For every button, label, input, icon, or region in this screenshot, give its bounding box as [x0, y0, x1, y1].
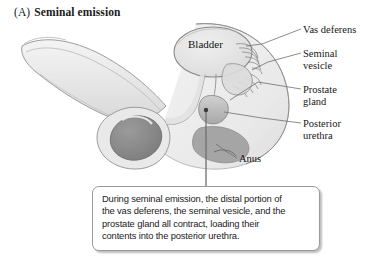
label-vas-deferens: Vas deferens: [303, 24, 356, 36]
leader-caption-anchor: [204, 108, 208, 112]
prostate-gland-organ: [199, 95, 229, 124]
label-seminal-vesicle: Seminal vesicle: [303, 48, 337, 71]
label-posterior-urethra: Posterior urethra: [303, 118, 341, 141]
caption-box: During seminal emission, the distal port…: [92, 186, 320, 251]
figure-panel-a: (A)Seminal emission: [0, 0, 391, 264]
scrotum: [97, 107, 170, 169]
label-anus: Anus: [239, 153, 261, 165]
caption-text: During seminal emission, the distal port…: [102, 193, 311, 243]
label-prostate-gland: Prostate gland: [303, 84, 337, 107]
label-bladder: Bladder: [188, 39, 223, 51]
